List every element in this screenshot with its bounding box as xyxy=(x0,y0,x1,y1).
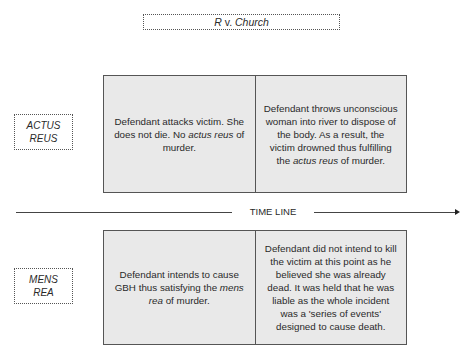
cell-text: of murder. xyxy=(163,295,210,306)
mens-rea-label-line-1: MENS xyxy=(29,273,58,286)
timeline-label: TIME LINE xyxy=(236,206,310,218)
actus-reus-label-line-2: REUS xyxy=(30,132,58,145)
arrow-right-icon xyxy=(455,209,460,215)
mens-rea-cell-2: Defendant did not intend to kill the vic… xyxy=(255,231,407,344)
case-title-name: Church xyxy=(235,16,269,28)
cell-text: of murder. xyxy=(338,155,385,166)
case-title-connector: v. xyxy=(222,16,235,28)
actus-reus-label: ACTUS REUS xyxy=(14,114,73,150)
actus-reus-cell-1: Defendant attacks victim. She does not d… xyxy=(104,76,255,192)
cell-text: Defendant did not intend to kill the vic… xyxy=(265,243,397,332)
cell-emphasis: actus reus xyxy=(188,129,233,140)
timeline-line-left xyxy=(16,212,232,213)
timeline: TIME LINE xyxy=(16,206,460,218)
timeline-line-right xyxy=(314,212,456,213)
actus-reus-row: Defendant attacks victim. She does not d… xyxy=(103,75,407,193)
mens-rea-label: MENS REA xyxy=(14,268,73,304)
actus-reus-label-line-1: ACTUS xyxy=(27,119,61,132)
case-title-box: R v. Church xyxy=(143,14,340,30)
mens-rea-label-line-2: REA xyxy=(33,286,54,299)
actus-reus-cell-2: Defendant throws unconscious woman into … xyxy=(255,76,407,192)
cell-emphasis: actus reus xyxy=(293,155,338,166)
mens-rea-cell-1: Defendant intends to cause GBH thus sati… xyxy=(104,231,255,344)
case-title-letter: R xyxy=(214,16,222,28)
mens-rea-row: Defendant intends to cause GBH thus sati… xyxy=(103,230,407,345)
